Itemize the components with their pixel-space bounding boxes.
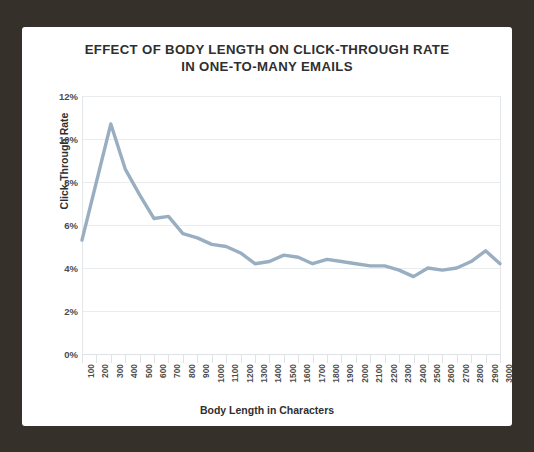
x-tick-mark-2200 bbox=[385, 354, 386, 363]
x-tick-mark-300 bbox=[111, 354, 112, 363]
x-axis-tick-labels: 1002003004005006007008009001000110012001… bbox=[82, 364, 500, 400]
x-tick-1100: 1100 bbox=[230, 364, 240, 400]
x-tick-mark-400 bbox=[125, 354, 126, 363]
x-tick-mark-200 bbox=[96, 354, 97, 363]
x-tick-mark-600 bbox=[154, 354, 155, 363]
x-tick-mark-2400 bbox=[414, 354, 415, 363]
x-tick-1400: 1400 bbox=[273, 364, 283, 400]
x-tick-200: 200 bbox=[100, 364, 110, 400]
x-tick-mark-1400 bbox=[269, 354, 270, 363]
x-tick-400: 400 bbox=[129, 364, 139, 400]
x-tick-mark-1200 bbox=[241, 354, 242, 363]
x-tick-mark-2000 bbox=[356, 354, 357, 363]
x-tick-300: 300 bbox=[115, 364, 125, 400]
y-tick-2%: 2% bbox=[44, 306, 78, 317]
x-tick-100: 100 bbox=[86, 364, 96, 400]
y-tick-12%: 12% bbox=[44, 91, 78, 102]
x-tick-mark-2700 bbox=[457, 354, 458, 363]
x-tick-mark-1000 bbox=[212, 354, 213, 363]
x-tick-3000: 3000 bbox=[504, 364, 512, 400]
x-tick-2000: 2000 bbox=[360, 364, 370, 400]
plot-right-border bbox=[500, 96, 501, 354]
x-tick-mark-1900 bbox=[341, 354, 342, 363]
x-tick-1600: 1600 bbox=[302, 364, 312, 400]
x-tick-mark-500 bbox=[140, 354, 141, 363]
y-tick-8%: 8% bbox=[44, 177, 78, 188]
x-tick-mark-2100 bbox=[370, 354, 371, 363]
x-tick-mark-700 bbox=[168, 354, 169, 363]
x-tick-1800: 1800 bbox=[331, 364, 341, 400]
x-tick-1300: 1300 bbox=[259, 364, 269, 400]
y-tick-4%: 4% bbox=[44, 263, 78, 274]
x-tick-mark-1300 bbox=[255, 354, 256, 363]
y-tick-0%: 0% bbox=[44, 349, 78, 360]
x-tick-1000: 1000 bbox=[216, 364, 226, 400]
x-tick-2400: 2400 bbox=[418, 364, 428, 400]
x-tick-2300: 2300 bbox=[403, 364, 413, 400]
x-tick-700: 700 bbox=[172, 364, 182, 400]
x-tick-2100: 2100 bbox=[374, 364, 384, 400]
x-tick-500: 500 bbox=[144, 364, 154, 400]
chart-panel: EFFECT OF BODY LENGTH ON CLICK-THROUGH R… bbox=[22, 27, 512, 426]
x-tick-2200: 2200 bbox=[389, 364, 399, 400]
x-tick-900: 900 bbox=[201, 364, 211, 400]
x-tick-1900: 1900 bbox=[345, 364, 355, 400]
x-tick-mark-2300 bbox=[399, 354, 400, 363]
x-tick-2800: 2800 bbox=[475, 364, 485, 400]
poster-frame: EFFECT OF BODY LENGTH ON CLICK-THROUGH R… bbox=[0, 0, 534, 452]
x-tick-mark-1800 bbox=[327, 354, 328, 363]
x-tick-2500: 2500 bbox=[432, 364, 442, 400]
x-tick-600: 600 bbox=[158, 364, 168, 400]
x-tick-mark-2800 bbox=[471, 354, 472, 363]
series-click-through-rate bbox=[82, 124, 500, 277]
x-tick-mark-1100 bbox=[226, 354, 227, 363]
x-axis-tick-marks bbox=[82, 354, 500, 363]
x-tick-mark-800 bbox=[183, 354, 184, 363]
x-tick-1200: 1200 bbox=[245, 364, 255, 400]
x-tick-mark-900 bbox=[197, 354, 198, 363]
x-tick-mark-1700 bbox=[313, 354, 314, 363]
x-axis-title: Body Length in Characters bbox=[22, 404, 512, 416]
y-axis-tick-labels: 0%2%4%6%8%10%12% bbox=[38, 96, 78, 354]
x-tick-800: 800 bbox=[187, 364, 197, 400]
chart-title-line-1: EFFECT OF BODY LENGTH ON CLICK-THROUGH R… bbox=[85, 42, 450, 57]
x-tick-mark-3000 bbox=[500, 354, 501, 363]
series-line-chart bbox=[82, 96, 500, 354]
x-tick-mark-1600 bbox=[298, 354, 299, 363]
x-tick-1700: 1700 bbox=[317, 364, 327, 400]
x-tick-2600: 2600 bbox=[446, 364, 456, 400]
x-tick-2700: 2700 bbox=[461, 364, 471, 400]
y-tick-6%: 6% bbox=[44, 220, 78, 231]
chart-title-line-2: IN ONE-TO-MANY EMAILS bbox=[22, 58, 512, 75]
x-tick-2900: 2900 bbox=[490, 364, 500, 400]
x-tick-mark-100 bbox=[82, 354, 83, 363]
chart-title: EFFECT OF BODY LENGTH ON CLICK-THROUGH R… bbox=[22, 41, 512, 75]
y-tick-10%: 10% bbox=[44, 134, 78, 145]
x-tick-1500: 1500 bbox=[288, 364, 298, 400]
x-tick-mark-2900 bbox=[486, 354, 487, 363]
x-tick-mark-1500 bbox=[284, 354, 285, 363]
x-tick-mark-2600 bbox=[442, 354, 443, 363]
x-tick-mark-2500 bbox=[428, 354, 429, 363]
